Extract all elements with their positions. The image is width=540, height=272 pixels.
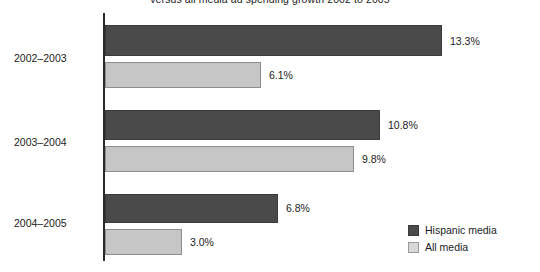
bar-value-all-media-2002-2003: 6.1% [269,69,293,81]
legend-label-all-media: All media [425,241,468,253]
category-label-2003-2004: 2003–2004 [14,136,98,148]
bar-value-hispanic-media-2004-2005: 6.8% [286,202,310,214]
legend-item-all-media: All media [408,239,538,255]
bar-all-media-2003-2004 [105,146,354,172]
bar-value-hispanic-media-2003-2004: 10.8% [388,119,418,131]
bar-all-media-2002-2003 [105,62,261,88]
bar-all-media-2004-2005 [105,229,182,255]
category-label-2004-2005: 2004–2005 [14,217,98,229]
bar-value-all-media-2003-2004: 9.8% [362,153,386,165]
chart-legend: Hispanic media All media [408,222,538,256]
bar-value-hispanic-media-2002-2003: 13.3% [450,35,480,47]
bar-value-all-media-2004-2005: 3.0% [190,236,214,248]
legend-item-hispanic-media: Hispanic media [408,222,538,238]
bar-hispanic-media-2002-2003 [105,25,442,56]
legend-label-hispanic-media: Hispanic media [425,224,497,236]
legend-swatch-hispanic-media [408,225,419,236]
bar-hispanic-media-2004-2005 [105,194,278,223]
bar-hispanic-media-2003-2004 [105,110,380,140]
legend-swatch-all-media [408,242,419,253]
category-label-2002-2003: 2002–2003 [14,52,98,64]
bar-chart: versus all media ad spending growth 2002… [0,0,540,272]
